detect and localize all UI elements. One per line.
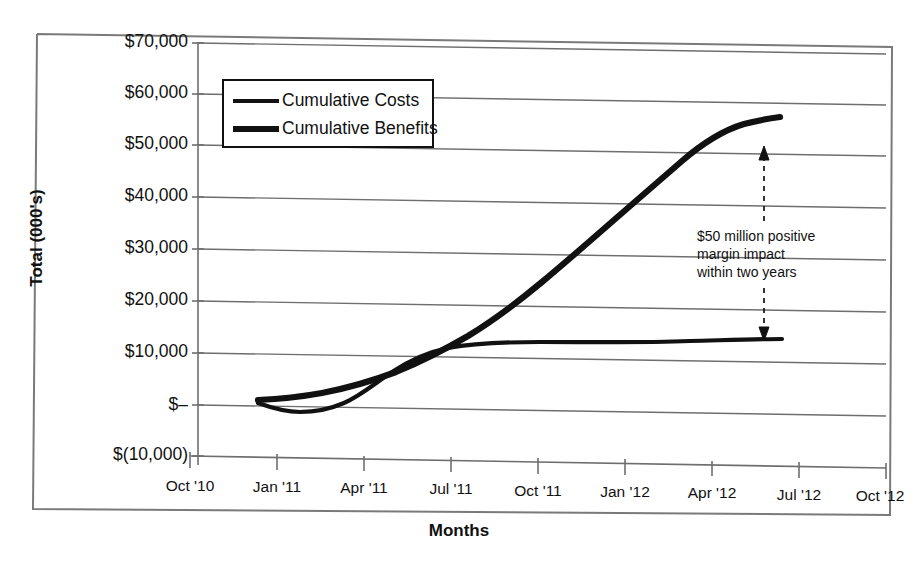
x-tick-oct-10: Oct '10 bbox=[166, 478, 215, 494]
legend-item-cumulative-costs: Cumulative Costs bbox=[224, 87, 432, 115]
x-tick-oct-12: Oct '12 bbox=[856, 488, 905, 504]
x-tick-jan-11: Jan '11 bbox=[253, 479, 301, 495]
y-axis-title: Total (000's) bbox=[27, 163, 47, 313]
x-tick-jan-12: Jan '12 bbox=[600, 484, 650, 500]
annotation-line-3: within two years bbox=[697, 264, 849, 282]
legend-line-swatch-icon bbox=[233, 126, 279, 132]
x-tick-apr-12: Apr '12 bbox=[688, 485, 737, 501]
annotation-callout: $50 million positive margin impact withi… bbox=[697, 228, 849, 282]
cumulative-costs-benefits-chart: $70,000 $60,000 $50,000 $40,000 $30,000 … bbox=[0, 0, 918, 566]
legend-label-cumulative-benefits: Cumulative Benefits bbox=[282, 120, 438, 138]
legend-item-cumulative-benefits: Cumulative Benefits bbox=[224, 115, 432, 143]
legend-line-swatch-icon bbox=[233, 99, 279, 103]
x-axis-tick-labels: Oct '10 Jan '11 Apr '11 Jul '11 Oct '11 … bbox=[0, 0, 918, 566]
x-tick-jul-11: Jul '11 bbox=[429, 481, 472, 497]
annotation-line-1: $50 million positive bbox=[697, 228, 849, 246]
x-tick-apr-11: Apr '11 bbox=[340, 480, 387, 496]
legend-label-cumulative-costs: Cumulative Costs bbox=[282, 92, 419, 110]
chart-legend: Cumulative Costs Cumulative Benefits bbox=[222, 79, 434, 148]
x-tick-jul-12: Jul '12 bbox=[777, 487, 821, 503]
x-axis-title: Months bbox=[0, 521, 918, 541]
x-tick-oct-11: Oct '11 bbox=[514, 483, 561, 499]
annotation-line-2: margin impact bbox=[697, 246, 849, 264]
